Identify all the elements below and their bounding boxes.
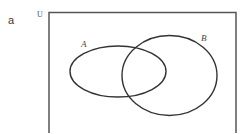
- set-b-ellipse: [122, 36, 217, 116]
- universe-rectangle: [49, 13, 236, 134]
- venn-diagram: a U A B: [0, 0, 240, 133]
- set-b-label: B: [201, 33, 207, 43]
- set-a-ellipse: [70, 46, 166, 97]
- set-a-label: A: [80, 39, 87, 49]
- universe-label: U: [37, 10, 43, 19]
- part-label: a: [8, 14, 15, 26]
